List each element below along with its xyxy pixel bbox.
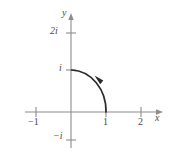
complex-plane-figure: y x 2i i −i −1 1 2: [0, 0, 171, 158]
figure-canvas: [0, 0, 171, 158]
x-tick-label-1: 1: [103, 117, 108, 127]
x-tick-label-2: 2: [138, 117, 143, 127]
y-tick-label-negative-i: −i: [53, 131, 63, 141]
quarter-circle-arc: [72, 70, 107, 112]
y-tick-label-2i: 2i: [50, 26, 58, 36]
y-axis-arrow-icon: [68, 13, 73, 20]
y-tick-label-i: i: [59, 63, 62, 73]
x-axis-label: x: [155, 113, 159, 123]
y-axis-label: y: [62, 8, 66, 18]
x-tick-label-negative-1: −1: [28, 117, 39, 127]
